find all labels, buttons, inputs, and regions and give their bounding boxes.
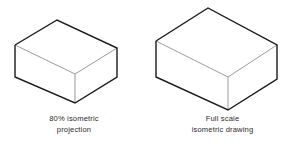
isometric-box-80-percent-drawing bbox=[0, 0, 148, 112]
caption-full-scale-isometric: Full scale isometric drawing bbox=[148, 114, 297, 135]
isometric-box-full-scale-svg bbox=[148, 0, 297, 120]
caption-line-1: 80% isometric bbox=[0, 114, 148, 125]
panel-80-percent-isometric: 80% isometric projection bbox=[0, 0, 148, 151]
caption-line-2: isometric drawing bbox=[148, 125, 297, 136]
caption-line-2: projection bbox=[0, 125, 148, 136]
caption-80-percent-isometric: 80% isometric projection bbox=[0, 114, 148, 135]
panel-full-scale-isometric: Full scale isometric drawing bbox=[148, 0, 297, 151]
caption-line-1: Full scale bbox=[148, 114, 297, 125]
isometric-box-80-percent-svg bbox=[0, 0, 148, 112]
isometric-box-full-scale-drawing bbox=[148, 0, 297, 120]
isometric-comparison-figure: 80% isometric projection Full scale isom… bbox=[0, 0, 297, 151]
